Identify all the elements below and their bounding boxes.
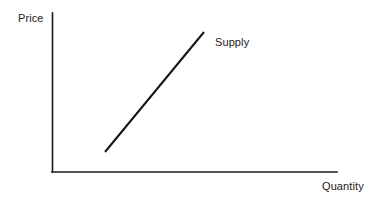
supply-curve-label: Supply xyxy=(215,36,249,48)
y-axis-label: Price xyxy=(18,12,44,24)
supply-curve-line xyxy=(105,32,204,152)
chart-canvas xyxy=(0,0,383,198)
x-axis-label: Quantity xyxy=(322,180,364,192)
supply-curve-figure: Price Quantity Supply xyxy=(0,0,383,198)
